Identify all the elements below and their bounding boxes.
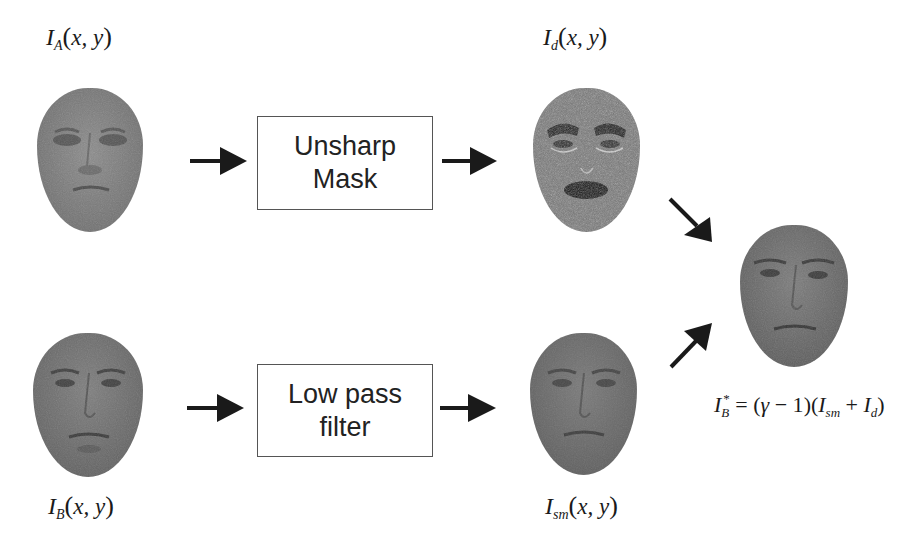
diagram-canvas: IA(x, y) Id(x, y) IB(x, y) Ism(x, y) bbox=[0, 0, 909, 549]
arrow-right-icon bbox=[440, 394, 496, 422]
formula-term1-symbol: I bbox=[818, 392, 825, 417]
formula-paren: ) bbox=[877, 392, 884, 417]
formula-equals: = bbox=[730, 392, 753, 417]
formula-plus: + bbox=[840, 392, 863, 417]
formula-paren: ) bbox=[804, 392, 811, 417]
formula-term1-sub: sm bbox=[826, 405, 840, 420]
formula-gamma: γ bbox=[761, 392, 770, 417]
formula-lhs-sub: B bbox=[721, 405, 729, 420]
arrow-right-icon bbox=[442, 147, 497, 175]
arrow-right-icon bbox=[187, 394, 244, 422]
formula-term2-symbol: I bbox=[863, 392, 870, 417]
output-formula: IB* = (γ − 1)(Ism + Id) bbox=[714, 392, 885, 419]
formula-minus-one: − 1 bbox=[769, 392, 803, 417]
formula-paren: ( bbox=[753, 392, 760, 417]
arrow-down-right-icon bbox=[670, 199, 712, 242]
arrow-up-right-icon bbox=[671, 323, 712, 367]
arrow-right-icon bbox=[190, 147, 247, 175]
arrows-layer bbox=[0, 0, 909, 549]
